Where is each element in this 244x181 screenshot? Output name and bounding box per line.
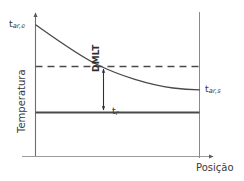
temperature-position-diagram: tar,e tar,s tr DMLT Temperatura Posição [0,0,244,181]
outlet-temperature-subscript: ar,s [209,87,221,95]
x-axis-label: Posição [196,163,234,173]
dmlt-label: DMLT [92,44,101,72]
air-temperature-curve [36,25,200,90]
outlet-temperature-label: tar,s [205,84,221,95]
refrigerant-temperature-subscript: r [116,109,119,117]
refrigerant-temperature-label: tr [112,106,119,117]
inlet-temperature-label: tar,e [9,19,25,30]
inlet-temperature-subscript: ar,e [13,22,26,30]
y-axis-label: Temperatura [17,69,27,133]
